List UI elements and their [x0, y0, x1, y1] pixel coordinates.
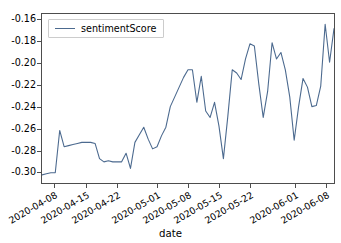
- x-axis-tick-mark: [250, 184, 251, 188]
- y-axis-tick-mark: [37, 19, 41, 20]
- x-axis-tick-mark: [117, 184, 118, 188]
- plot-area: [41, 13, 335, 184]
- chart-figure: -0.16-0.18-0.20-0.22-0.24-0.26-0.28-0.30…: [0, 0, 341, 243]
- x-axis-tick-mark: [157, 184, 158, 188]
- y-axis-tick-label: -0.20: [11, 58, 36, 68]
- y-axis-tick-label: -0.24: [11, 102, 36, 112]
- y-axis-tick-mark: [37, 151, 41, 152]
- y-axis-tick-label: -0.30: [11, 167, 36, 177]
- line-series-svg: [42, 14, 334, 183]
- chart-legend: sentimentScore: [48, 19, 164, 38]
- y-axis-tick-label: -0.28: [11, 146, 36, 156]
- legend-label-sentimentscore: sentimentScore: [81, 24, 156, 34]
- y-axis-tick-mark: [37, 172, 41, 173]
- series-sentimentscore-line: [42, 24, 334, 175]
- y-axis-tick-mark: [37, 129, 41, 130]
- x-axis-tick-mark: [326, 184, 327, 188]
- y-axis-tick-mark: [37, 41, 41, 42]
- y-axis-tick-label: -0.26: [11, 124, 36, 134]
- y-axis-tick-mark: [37, 85, 41, 86]
- y-axis-tick-label: -0.18: [11, 36, 36, 46]
- y-axis-tick-label: -0.22: [11, 80, 36, 90]
- legend-line-swatch: [55, 28, 75, 29]
- y-axis-tick-mark: [37, 63, 41, 64]
- x-axis-tick-mark: [295, 184, 296, 188]
- x-axis-tick-mark: [188, 184, 189, 188]
- y-axis-tick-label: -0.16: [11, 14, 36, 24]
- y-axis-tick-mark: [37, 107, 41, 108]
- x-axis-tick-mark: [219, 184, 220, 188]
- x-axis-tick-mark: [86, 184, 87, 188]
- x-axis-tick-mark: [54, 184, 55, 188]
